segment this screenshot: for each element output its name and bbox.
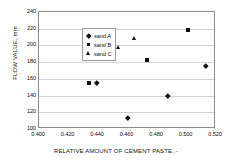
- data-point: [166, 94, 170, 98]
- diamond-marker-icon: [125, 116, 130, 121]
- triangle-marker-icon: [116, 45, 120, 49]
- diamond-marker-icon: [86, 33, 91, 38]
- y-axis-tick-label: 220: [2, 25, 36, 31]
- legend-item-sand-c: sand C: [86, 49, 111, 58]
- legend-item-label: sand C: [94, 51, 111, 57]
- y-axis-title: FLOW VALUE, mm: [12, 0, 18, 108]
- square-marker-icon: [145, 58, 149, 62]
- diamond-marker-icon: [203, 63, 208, 68]
- y-axis-tick-label: 200: [2, 41, 36, 47]
- scatter-chart-figure: 100120140160180200220240 sand Asand Bsan…: [0, 0, 232, 168]
- x-axis-tick-labels: 0.4000.4200.4400.4600.4800.5000.520: [38, 131, 215, 140]
- y-axis-tick-label: 140: [2, 92, 36, 98]
- triangle-marker-icon: [86, 51, 91, 56]
- data-point: [87, 81, 91, 85]
- triangle-marker-icon: [132, 36, 136, 40]
- y-axis-tick-label: 180: [2, 58, 36, 64]
- gridline: [39, 96, 214, 97]
- gridline: [39, 45, 214, 46]
- legend-item-label: sand A: [94, 33, 111, 39]
- data-point: [116, 45, 120, 49]
- data-point: [95, 81, 99, 85]
- x-axis-title: RELATIVE AMOUNT OF CEMENT PASTE, -: [0, 148, 232, 154]
- gridline: [39, 79, 214, 80]
- plot-area: sand Asand Bsand C: [38, 11, 215, 128]
- legend: sand Asand Bsand C: [82, 28, 116, 61]
- square-marker-icon: [86, 42, 91, 47]
- data-point: [186, 28, 190, 32]
- triangle-marker-icon: [86, 51, 90, 55]
- gridline: [39, 112, 214, 113]
- square-marker-icon: [186, 28, 190, 32]
- y-axis-tick-label: 160: [2, 75, 36, 81]
- x-axis-tick-label: 0.520: [195, 131, 232, 138]
- data-point: [132, 36, 136, 40]
- diamond-marker-icon: [165, 93, 170, 98]
- y-axis-tick-labels: 100120140160180200220240: [0, 11, 36, 128]
- data-point: [204, 64, 208, 68]
- square-marker-icon: [87, 81, 91, 85]
- data-point: [145, 58, 149, 62]
- legend-item-sand-b: sand B: [86, 40, 111, 49]
- y-axis-tick-label: 120: [2, 108, 36, 114]
- data-point: [126, 116, 130, 120]
- legend-item-sand-a: sand A: [86, 31, 111, 40]
- diamond-marker-icon: [94, 80, 99, 85]
- gridline: [39, 62, 214, 63]
- y-axis-tick-label: 240: [2, 8, 36, 14]
- square-marker-icon: [87, 43, 91, 47]
- legend-item-label: sand B: [94, 42, 111, 48]
- diamond-marker-icon: [86, 33, 91, 38]
